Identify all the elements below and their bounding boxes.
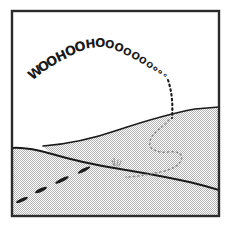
comic-panel: WOOHOOHOOOOOOOooo Comic panel: sledding … [0, 0, 231, 227]
panel-artwork: WOOHOOHOOOOOOOooo [0, 0, 231, 227]
